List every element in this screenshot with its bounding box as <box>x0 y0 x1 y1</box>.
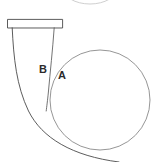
clipped-arc-shape <box>63 0 117 4</box>
main-circle-shape <box>50 50 150 150</box>
point-label-a: A <box>58 70 66 81</box>
figure-canvas: A B <box>0 0 154 162</box>
outer-limb-shape <box>12 28 119 162</box>
diagram-svg <box>0 0 154 162</box>
top-bar-shape <box>8 19 63 27</box>
point-label-b: B <box>39 64 47 75</box>
